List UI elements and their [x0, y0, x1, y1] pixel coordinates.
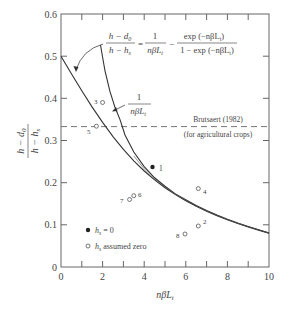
point-label: 7: [120, 197, 124, 205]
reciprocal-curve: [101, 45, 270, 233]
y-tick-label: 0.1: [45, 219, 58, 230]
svg-text:nβLt: nβLt: [130, 106, 146, 117]
point-label: 4: [203, 188, 207, 196]
x-axis-label: nβLt: [156, 289, 175, 302]
svg-text:1 − exp (−nβLt): 1 − exp (−nβLt): [180, 45, 234, 56]
y-ticks: [61, 56, 269, 225]
y-tick-label: 0: [52, 262, 57, 273]
chart: 0 2 4 6 8 10 0 0.1 0.2 0.3 0.4 0.5 0.6 h…: [0, 0, 281, 311]
svg-text:nβLt: nβLt: [147, 45, 163, 56]
svg-text:exp (−nβLt): exp (−nβLt): [184, 31, 224, 42]
data-point-open: [132, 194, 136, 198]
brutsaert-note: (for agricultural crops): [184, 130, 253, 139]
svg-text:1: 1: [153, 31, 158, 41]
legend-label-filled: hs = 0: [95, 226, 114, 236]
data-point-open: [196, 187, 200, 191]
svg-text:h − hs: h − hs: [29, 128, 42, 153]
point-label: 8: [176, 232, 180, 240]
exact-curve: [61, 56, 269, 233]
y-tick-label: 0.6: [45, 9, 58, 20]
legend-open-marker: [86, 244, 90, 248]
x-tick-label: 4: [142, 271, 147, 282]
svg-text:1: 1: [137, 92, 142, 102]
point-label: 6: [138, 191, 142, 199]
x-tick-label: 2: [100, 271, 105, 282]
x-tick-label: 0: [59, 271, 64, 282]
y-tick-label: 0.5: [45, 51, 58, 62]
y-tick-label: 0.4: [45, 93, 58, 104]
x-tick-label: 6: [183, 271, 188, 282]
reciprocal-label: 1 nβLt: [128, 92, 151, 117]
svg-text:h − hs: h − hs: [109, 45, 132, 56]
point-label: 2: [203, 218, 207, 226]
data-point-open: [183, 232, 187, 236]
svg-text:−: −: [169, 39, 174, 49]
data-point-open: [101, 101, 105, 105]
legend: hs = 0 hs assumed zero: [86, 226, 147, 252]
svg-text:=: =: [138, 39, 143, 49]
plot-frame: [61, 14, 269, 267]
brutsaert-label: Brutsaert (1982): [193, 115, 243, 124]
svg-text:h − d0: h − d0: [109, 31, 132, 42]
legend-label-open: hs assumed zero: [95, 242, 146, 252]
data-point-open: [94, 124, 98, 128]
arrowhead-icon: [74, 66, 79, 72]
legend-filled-marker: [86, 228, 90, 232]
x-tick-labels: 0 2 4 6 8 10: [59, 271, 275, 282]
y-axis-label: h − d0 h − hs: [15, 124, 42, 158]
y-tick-labels: 0 0.1 0.2 0.3 0.4 0.5 0.6: [45, 9, 58, 273]
equation-label: h − d0 h − hs = 1 nβLt − exp (−nβLt) 1 −…: [106, 31, 237, 56]
point-label: 3: [94, 98, 98, 106]
data-point-open: [128, 198, 132, 202]
svg-text:h − d0: h − d0: [15, 128, 28, 154]
point-label: 1: [159, 164, 163, 173]
data-point-open: [196, 224, 200, 228]
y-tick-label: 0.2: [45, 177, 58, 188]
point-label: 5: [87, 128, 91, 136]
x-tick-label: 8: [225, 271, 230, 282]
y-tick-label: 0.3: [45, 135, 58, 146]
x-tick-label: 10: [264, 271, 274, 282]
equation-arrow: [76, 44, 103, 70]
data-point-filled: [150, 165, 154, 169]
